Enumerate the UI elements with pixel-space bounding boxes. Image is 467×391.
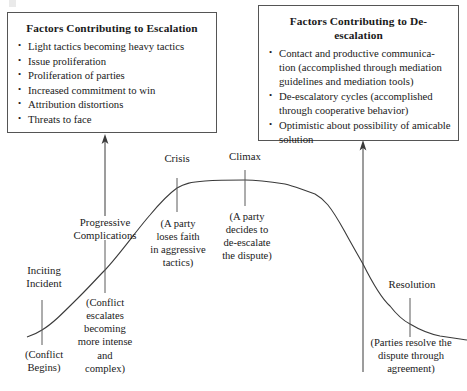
deescalation-factors-box: Factors Contributing to De-escalation • … bbox=[258, 5, 459, 141]
bullet-icon: • bbox=[18, 97, 21, 110]
factor-text: Issue proliferation bbox=[28, 55, 106, 67]
factor-text: De-escalatory cycles (accomplished throu… bbox=[279, 90, 433, 116]
list-item: • Attribution distortions bbox=[15, 97, 209, 111]
bullet-icon: • bbox=[269, 89, 272, 102]
factor-text: Optimistic about possibility of amicable… bbox=[279, 119, 451, 145]
stage-label-crisis: Crisis bbox=[148, 152, 206, 165]
factor-text: Attribution distortions bbox=[28, 98, 123, 110]
bullet-icon: • bbox=[18, 39, 21, 52]
deescalation-factors-list: • Contact and productive communica-tion … bbox=[266, 46, 451, 146]
stage-label-resolution: Resolution bbox=[378, 278, 446, 291]
deescalation-box-title: Factors Contributing to De-escalation bbox=[266, 14, 451, 42]
escalation-box-title: Factors Contributing to Escalation bbox=[15, 21, 209, 35]
bullet-icon: • bbox=[18, 68, 21, 81]
escalation-factors-box: Factors Contributing to Escalation • Lig… bbox=[7, 12, 217, 133]
conflict-curve-diagram: Factors Contributing to Escalation • Lig… bbox=[0, 0, 467, 391]
bullet-icon: • bbox=[269, 118, 272, 131]
bullet-icon: • bbox=[18, 54, 21, 67]
list-item: • Threats to face bbox=[15, 112, 209, 126]
stage-description-progressive-complications: (Conflictescalatesbecomingmore intensean… bbox=[62, 296, 148, 375]
escalation-factors-list: • Light tactics becoming heavy tactics •… bbox=[15, 39, 209, 126]
factor-text: Threats to face bbox=[28, 113, 92, 125]
bullet-icon: • bbox=[18, 112, 21, 125]
list-item: • Optimistic about possibility of amicab… bbox=[266, 118, 451, 146]
factor-text: Proliferation of parties bbox=[28, 69, 125, 81]
stage-description-resolution: (Parties resolve thedispute throughagree… bbox=[355, 336, 467, 375]
stage-label-inciting-incident: IncitingIncident bbox=[6, 264, 82, 290]
factor-text: Increased commitment to win bbox=[28, 84, 155, 96]
list-item: • Proliferation of parties bbox=[15, 68, 209, 82]
stage-description-crisis: (A partyloses faithin aggressivetactics) bbox=[143, 217, 213, 270]
stage-label-progressive-complications: ProgressiveComplications bbox=[57, 216, 153, 242]
bullet-icon: • bbox=[269, 46, 272, 59]
list-item: • Increased commitment to win bbox=[15, 83, 209, 97]
factor-text: Contact and productive communica-tion (a… bbox=[279, 47, 442, 87]
list-item: • Issue proliferation bbox=[15, 54, 209, 68]
stage-description-climax: (A partydecides tode-escalatethe dispute… bbox=[213, 210, 281, 263]
list-item: • Light tactics becoming heavy tactics bbox=[15, 39, 209, 53]
list-item: • De-escalatory cycles (accomplished thr… bbox=[266, 89, 451, 117]
list-item: • Contact and productive communica-tion … bbox=[266, 46, 451, 88]
bullet-icon: • bbox=[18, 83, 21, 96]
stage-label-climax: Climax bbox=[216, 150, 274, 163]
factor-text: Light tactics becoming heavy tactics bbox=[28, 40, 184, 52]
